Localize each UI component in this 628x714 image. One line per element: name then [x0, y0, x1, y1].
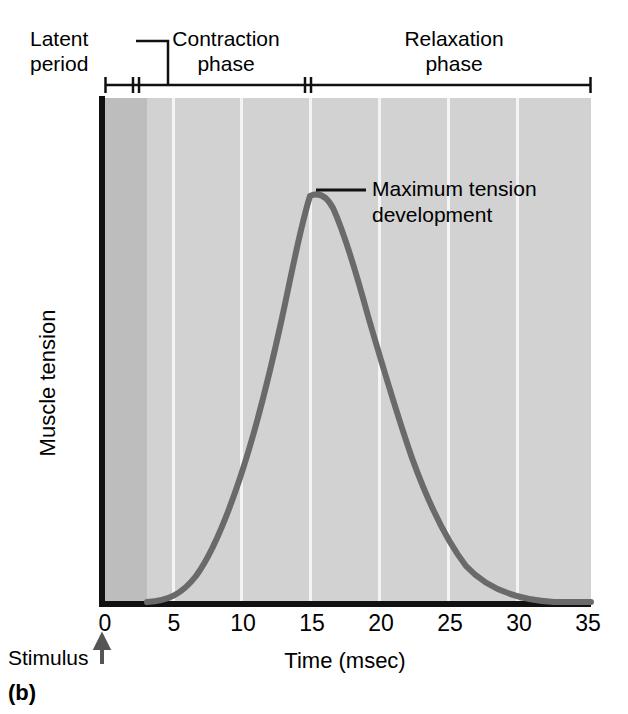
gridline: [516, 98, 519, 605]
gridline: [172, 98, 175, 605]
x-tick-label: 0: [80, 610, 130, 637]
latent-period-label: Latent period: [30, 26, 138, 76]
x-tick-label: 25: [425, 610, 475, 637]
gridline: [447, 98, 450, 605]
stimulus-up-arrow-icon: [96, 636, 108, 664]
x-tick-label: 35: [563, 610, 613, 637]
x-tick-label: 15: [287, 610, 337, 637]
relaxation-phase-label: Relaxation phase: [316, 26, 592, 76]
x-tick-label: 30: [494, 610, 544, 637]
x-axis-line: [99, 601, 591, 607]
y-axis-title: Muscle tension: [35, 273, 61, 493]
panel-label: (b): [8, 680, 36, 706]
gridline: [240, 98, 243, 605]
plot-area: [105, 98, 591, 605]
x-tick-label: 10: [218, 610, 268, 637]
latent-period-band: [105, 98, 147, 605]
contraction-phase-label: Contraction phase: [138, 26, 314, 76]
x-axis-title: Time (msec): [225, 648, 465, 674]
muscle-twitch-figure: Latent period Contraction phase Relaxati…: [0, 0, 628, 714]
y-axis-line: [99, 96, 105, 607]
gridline: [309, 98, 312, 605]
x-tick-label: 5: [149, 610, 199, 637]
stimulus-label: Stimulus: [8, 646, 89, 670]
x-tick-label: 20: [356, 610, 406, 637]
gridline: [378, 98, 381, 605]
max-tension-annotation: Maximum tension development: [372, 176, 612, 228]
